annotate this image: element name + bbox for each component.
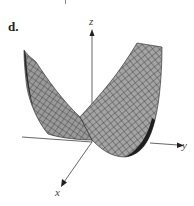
z-axis-label: z <box>89 15 93 27</box>
x-axis-label: x <box>55 186 60 198</box>
figure-d: d. z y x <box>0 0 194 206</box>
surface-plot <box>0 0 194 206</box>
y-axis-label: y <box>182 139 187 151</box>
y-axis-front <box>150 143 178 145</box>
x-axis <box>64 142 92 182</box>
surface-left-wing <box>24 50 92 140</box>
x-axis-arrow-icon <box>61 179 67 187</box>
z-axis-arrow-icon <box>90 29 95 36</box>
